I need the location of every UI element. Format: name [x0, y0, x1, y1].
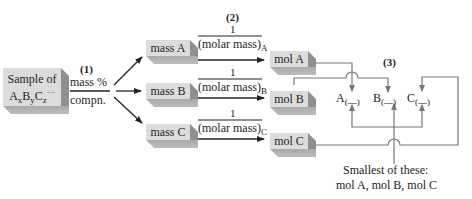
factor-b-numerator: 1 — [230, 66, 236, 79]
factor-c-denominator: (molar mass)C — [198, 122, 267, 135]
mol-c-box: mol C — [270, 133, 308, 149]
mass-a-box: mass A — [146, 40, 190, 56]
composition-label: compn. — [70, 94, 106, 107]
factor-a-denominator: (molar mass)A — [198, 38, 267, 51]
slot-c: C(—) — [407, 92, 430, 105]
divisor-note-line1: Smallest of these: — [343, 164, 428, 177]
mol-a-box: mol A — [270, 51, 308, 67]
mass-percent-label: mass % — [70, 76, 107, 89]
factor-c-numerator: 1 — [230, 107, 236, 120]
mass-c-box: mass C — [146, 124, 190, 140]
mass-b-box: mass B — [146, 83, 190, 99]
divisor-note-line2: mol A, mol B, mol C — [336, 179, 437, 192]
mol-b-box: mol B — [270, 91, 308, 107]
slot-a: A(—) — [336, 92, 360, 105]
factor-b-denominator: (molar mass)B — [198, 81, 267, 94]
sample-formula: AxByCz··· — [9, 86, 55, 103]
step-3-label: (3) — [383, 56, 396, 69]
slot-b: B(—) — [373, 92, 396, 105]
factor-a-numerator: 1 — [230, 23, 236, 36]
sample-label: Sample of — [8, 72, 57, 86]
sample-box: Sample of AxByCz··· — [3, 68, 61, 106]
